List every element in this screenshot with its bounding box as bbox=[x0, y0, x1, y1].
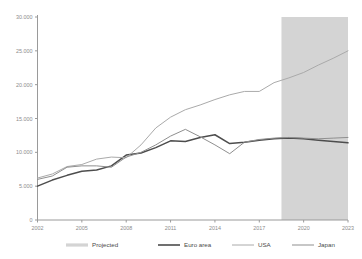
x-tick-label: 2011 bbox=[165, 225, 177, 231]
line-chart: 05.00010.00015.00020.00025.00030.000 200… bbox=[0, 0, 362, 259]
y-tick-label: 15.000 bbox=[16, 116, 33, 122]
legend-label-projected: Projected bbox=[92, 241, 119, 248]
projected-region-rect bbox=[281, 17, 348, 220]
legend-label-euro-area: Euro area bbox=[184, 241, 212, 248]
legend-label-usa: USA bbox=[258, 241, 272, 248]
y-tick-label: 30.000 bbox=[16, 14, 33, 20]
y-tick-label: 0 bbox=[30, 217, 33, 223]
chart-canvas: 05.00010.00015.00020.00025.00030.000 200… bbox=[0, 0, 362, 259]
legend-label-japan: Japan bbox=[318, 241, 335, 248]
y-tick-label: 20.000 bbox=[16, 82, 33, 88]
y-tick-label: 5.000 bbox=[19, 183, 33, 189]
x-tick-label: 2020 bbox=[298, 225, 310, 231]
x-tick-label: 2008 bbox=[120, 225, 132, 231]
x-tick-label: 2014 bbox=[209, 225, 221, 231]
x-tick-label: 2005 bbox=[76, 225, 88, 231]
x-tick-label: 2017 bbox=[253, 225, 265, 231]
x-tick-label: 2002 bbox=[32, 225, 44, 231]
y-tick-label: 25.000 bbox=[16, 48, 33, 54]
x-tick-label: 2023 bbox=[342, 225, 354, 231]
y-tick-label: 10.000 bbox=[16, 149, 33, 155]
projected-band bbox=[281, 17, 348, 220]
